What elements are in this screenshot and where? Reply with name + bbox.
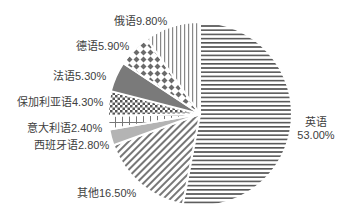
label-russian: 俄语9.80% — [114, 15, 167, 28]
label-bulgarian: 保加利亚语4.30% — [17, 96, 103, 109]
label-english-pct: 53.00% — [292, 129, 340, 142]
label-german: 德语5.90% — [76, 40, 129, 53]
label-english-name: 英语 — [292, 116, 340, 129]
label-spanish: 西班牙语2.80% — [34, 139, 109, 152]
label-italian: 意大利语2.40% — [27, 122, 102, 135]
label-french: 法语5.30% — [53, 70, 106, 83]
pie-chart — [0, 0, 340, 222]
label-other: 其他16.50% — [77, 187, 136, 200]
label-english: 英语 53.00% — [292, 116, 340, 142]
pie-slices — [108, 22, 292, 206]
